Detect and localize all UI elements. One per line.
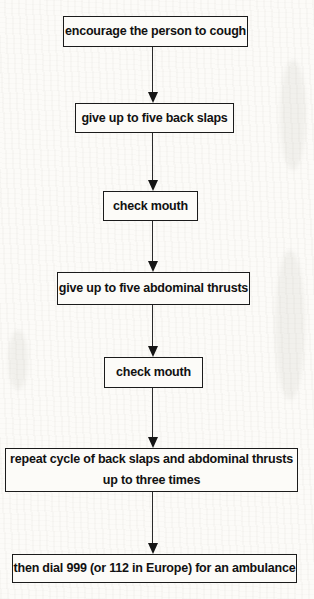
arrowhead-down-icon: [148, 543, 158, 554]
node-check-mouth-2-label: check mouth: [116, 362, 191, 383]
node-dial-ambulance: then dial 999 (or 112 in Europe) for an …: [12, 554, 297, 583]
arrow-cough-to-back-slaps: [147, 47, 158, 103]
node-back-slaps-label: give up to five back slaps: [81, 108, 227, 129]
scan-artifact: [275, 250, 305, 400]
arrow-shaft: [152, 47, 153, 94]
arrow-shaft: [152, 221, 153, 263]
arrowhead-down-icon: [148, 261, 158, 272]
node-repeat-cycle: repeat cycle of back slaps and abdominal…: [5, 448, 298, 492]
arrowhead-down-icon: [148, 180, 158, 191]
node-check-mouth-2: check mouth: [104, 357, 203, 388]
scan-artifact: [280, 60, 306, 170]
node-check-mouth-1: check mouth: [103, 191, 198, 221]
node-encourage-cough-label: encourage the person to cough: [65, 21, 246, 42]
arrowhead-down-icon: [148, 346, 158, 357]
arrowhead-down-icon: [148, 437, 158, 448]
arrow-shaft: [152, 492, 153, 545]
arrow-check-mouth-2-to-repeat: [147, 388, 158, 448]
arrow-repeat-to-ambulance: [147, 492, 158, 554]
scan-artifact: [8, 330, 28, 390]
arrow-thrusts-to-check-mouth-2: [147, 305, 158, 357]
arrow-check-mouth-1-to-thrusts: [147, 221, 158, 272]
node-repeat-cycle-line-1: repeat cycle of back slaps and abdominal…: [10, 449, 293, 470]
flowchart-page: encourage the person to cough give up to…: [0, 0, 314, 599]
node-abdominal-thrusts: give up to five abdominal thrusts: [57, 272, 250, 305]
node-repeat-cycle-line-2: up to three times: [103, 470, 200, 491]
arrow-shaft: [152, 388, 153, 439]
node-dial-ambulance-label: then dial 999 (or 112 in Europe) for an …: [14, 558, 296, 579]
arrow-shaft: [152, 305, 153, 348]
arrow-shaft: [152, 133, 153, 182]
node-encourage-cough: encourage the person to cough: [63, 16, 248, 47]
arrowhead-down-icon: [148, 92, 158, 103]
node-abdominal-thrusts-label: give up to five abdominal thrusts: [59, 278, 248, 299]
arrow-back-slaps-to-check-mouth-1: [147, 133, 158, 191]
node-check-mouth-1-label: check mouth: [113, 196, 188, 217]
node-back-slaps: give up to five back slaps: [75, 103, 234, 133]
